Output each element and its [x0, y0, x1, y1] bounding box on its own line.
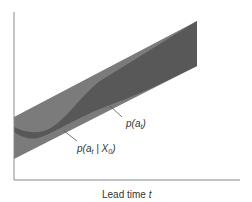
- x-axis-label: Lead time t: [102, 189, 153, 200]
- leader-line-p-at: [110, 106, 122, 117]
- diagram-canvas: p(at) p(at | X0) Lead time t: [0, 0, 252, 202]
- label-p-at: p(at): [125, 118, 146, 130]
- leader-line-p-at-given-x0: [64, 131, 77, 141]
- label-p-at-given-x0: p(at | X0): [76, 143, 115, 155]
